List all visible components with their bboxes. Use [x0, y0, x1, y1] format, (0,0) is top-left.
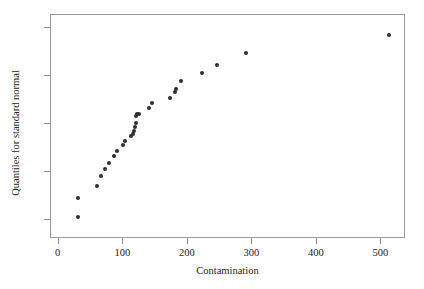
- plot-frame: [50, 14, 405, 238]
- data-point: [121, 143, 125, 147]
- x-axis-tick-label: 500: [360, 247, 400, 258]
- y-axis-tick: [44, 171, 50, 172]
- data-point: [95, 184, 99, 188]
- data-point: [134, 121, 138, 125]
- data-point: [133, 125, 137, 129]
- plot-area: [51, 15, 404, 237]
- x-axis-tick-label: 300: [231, 247, 271, 258]
- x-axis-tick: [251, 238, 252, 244]
- data-point: [103, 167, 107, 171]
- data-point: [150, 101, 154, 105]
- data-point: [174, 87, 178, 91]
- data-point: [168, 96, 172, 100]
- x-axis-tick: [58, 238, 59, 244]
- x-axis-title: Contamination: [50, 265, 405, 277]
- data-point: [147, 106, 151, 110]
- data-point: [99, 174, 103, 178]
- x-axis-tick: [380, 238, 381, 244]
- data-point: [76, 215, 80, 219]
- y-axis-tick: [44, 219, 50, 220]
- data-point: [132, 129, 136, 133]
- y-axis-tick: [44, 75, 50, 76]
- data-point: [215, 63, 219, 67]
- y-axis-tick: [44, 123, 50, 124]
- data-point: [76, 196, 80, 200]
- data-point: [387, 33, 391, 37]
- data-point: [107, 161, 111, 165]
- data-point: [137, 112, 141, 116]
- data-point: [112, 154, 116, 158]
- x-axis-tick-label: 200: [167, 247, 207, 258]
- data-point: [115, 149, 119, 153]
- data-point: [200, 71, 204, 75]
- y-axis-title: Quantiles for standard normal: [9, 21, 23, 245]
- x-axis-tick: [122, 238, 123, 244]
- data-point: [244, 51, 248, 55]
- x-axis-tick: [316, 238, 317, 244]
- x-axis-tick-label: 400: [296, 247, 336, 258]
- x-axis-tick-label: 0: [38, 247, 78, 258]
- data-point: [123, 139, 127, 143]
- x-axis-tick: [187, 238, 188, 244]
- y-axis-tick: [44, 27, 50, 28]
- x-axis-tick-label: 100: [102, 247, 142, 258]
- data-point: [179, 79, 183, 83]
- qq-plot-figure: 210−1−2 0100200300400500 Contamination Q…: [0, 0, 424, 289]
